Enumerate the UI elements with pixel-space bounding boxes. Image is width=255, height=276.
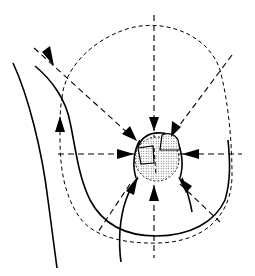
arrow-left-side-up-icon [55, 116, 65, 132]
arrow-right-icon [182, 149, 199, 159]
arrow-upper-right-icon [171, 121, 181, 137]
arrow-upper-left-icon [122, 126, 137, 141]
arrow-bottom-icon [149, 185, 159, 201]
arrow-lower-left-icon [126, 176, 138, 195]
breast-dashed-outline [60, 25, 232, 243]
nipple-flap-right [160, 134, 180, 150]
arrow-top-icon [149, 117, 159, 131]
breast-contour [35, 66, 230, 236]
body-contour [13, 63, 57, 268]
diagonal-guide-upper-left [34, 48, 130, 135]
arrow-outer-top-left-icon [42, 46, 54, 66]
breast-diagram [0, 0, 255, 276]
arrows [42, 46, 199, 201]
diagonal-guide-lower-left [98, 184, 130, 232]
arrow-lower-right-icon [178, 177, 192, 193]
diagonal-guide-upper-right [176, 55, 232, 130]
arrow-left-icon [117, 149, 134, 159]
nipple-flap-left [138, 146, 154, 164]
